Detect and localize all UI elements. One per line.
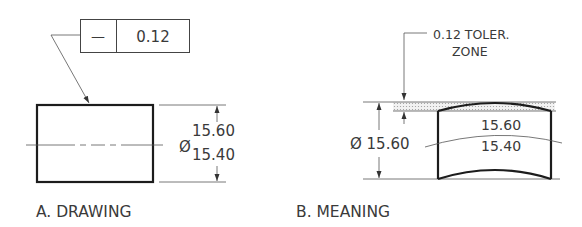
- zone-note-line2: ZONE: [452, 44, 488, 59]
- zone-note-line1: 0.12 TOLER.: [433, 27, 509, 42]
- tolerance-value: 0.12: [136, 28, 169, 46]
- panel-a-drawing: — 0.12 Ø 15.60 15.40 A. DRAWING: [26, 20, 235, 222]
- lower-limit: 15.40: [192, 146, 235, 164]
- upper-limit: 15.60: [192, 122, 235, 140]
- diameter-symbol-icon: Ø: [179, 138, 191, 156]
- panel-b-meaning: 0.12 TOLER. ZONE Ø 15.60 15.60 15.40 B. …: [296, 27, 562, 221]
- overall-diameter-dim: Ø 15.60: [350, 135, 410, 153]
- panel-b-label: B. MEANING: [296, 203, 390, 221]
- feature-control-frame: — 0.12: [81, 20, 190, 53]
- local-upper-limit: 15.60: [481, 117, 521, 133]
- tolerance-diagram: — 0.12 Ø 15.60 15.40 A. DRAWING: [0, 0, 582, 227]
- straightness-symbol-icon: —: [91, 28, 105, 44]
- panel-a-label: A. DRAWING: [36, 203, 132, 221]
- local-lower-limit: 15.40: [481, 138, 521, 154]
- part-outline: [37, 105, 153, 182]
